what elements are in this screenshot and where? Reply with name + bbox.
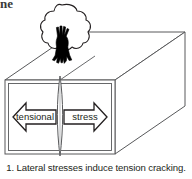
arrow-stress-label: stress — [72, 111, 98, 122]
tension-cracking-diagram: tensional stress — [0, 0, 192, 163]
figure-root: ne — [0, 0, 192, 179]
arrow-tensional-label: tensional — [16, 111, 54, 122]
soil-block — [5, 32, 185, 154]
figure-caption: 1. Lateral stresses induce tension crack… — [0, 161, 192, 179]
